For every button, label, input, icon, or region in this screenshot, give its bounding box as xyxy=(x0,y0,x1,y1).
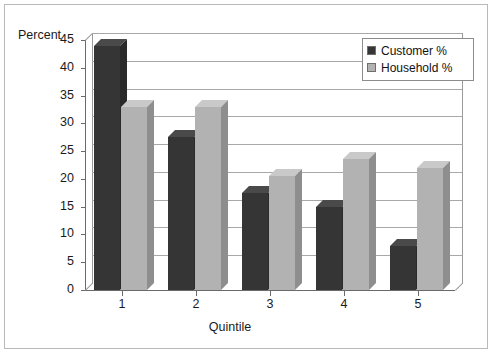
y-tick-mark xyxy=(81,234,85,235)
legend-swatch-customer xyxy=(367,46,376,55)
legend-swatch-household xyxy=(367,63,376,72)
x-tick-mark xyxy=(196,291,197,296)
bar-customer-q2 xyxy=(168,130,194,290)
legend-item: Household % xyxy=(367,59,469,76)
x-tick-label: 4 xyxy=(324,297,364,311)
y-tick-label: 30 xyxy=(40,115,74,129)
y-tick-mark xyxy=(81,68,85,69)
y-tick-label: 15 xyxy=(40,199,74,213)
y-axis-line xyxy=(85,40,86,291)
x-tick-label: 5 xyxy=(398,297,438,311)
bar-front xyxy=(390,246,416,290)
bar-side-face xyxy=(443,161,450,290)
x-tick-mark xyxy=(418,291,419,296)
x-tick-mark xyxy=(270,291,271,296)
bar-customer-q5 xyxy=(390,239,416,290)
y-tick-mark xyxy=(81,290,85,291)
legend-label-customer: Customer % xyxy=(381,44,447,58)
y-tick-label: 10 xyxy=(40,226,74,240)
chart-page: Percent 051015202530354045 12345 Quintil… xyxy=(0,0,493,354)
bar-household-q4 xyxy=(343,152,369,290)
y-tick-label: 20 xyxy=(40,171,74,185)
gridline xyxy=(92,89,462,90)
y-tick-mark xyxy=(81,179,85,180)
bar-front xyxy=(94,46,120,290)
x-tick-mark xyxy=(122,291,123,296)
y-tick-label: 25 xyxy=(40,143,74,157)
bar-customer-q1 xyxy=(94,39,120,290)
bar-customer-q4 xyxy=(316,200,342,290)
bar-customer-q3 xyxy=(242,186,268,290)
y-tick-mark xyxy=(81,96,85,97)
x-axis-title: Quintile xyxy=(0,320,460,334)
bar-front xyxy=(168,137,194,290)
bar-front xyxy=(195,107,221,290)
chart-legend: Customer % Household % xyxy=(362,38,474,81)
legend-label-household: Household % xyxy=(381,61,452,75)
x-tick-label: 1 xyxy=(102,297,142,311)
x-tick-label: 2 xyxy=(176,297,216,311)
x-tick-mark xyxy=(344,291,345,296)
bar-side-face xyxy=(369,152,376,290)
bar-household-q3 xyxy=(269,169,295,290)
bar-front xyxy=(343,159,369,290)
y-tick-label: 35 xyxy=(40,88,74,102)
y-tick-label: 45 xyxy=(40,32,74,46)
gridline xyxy=(92,33,462,34)
bar-side-face xyxy=(221,100,228,290)
y-tick-label: 0 xyxy=(40,282,74,296)
bar-front xyxy=(121,107,147,290)
bar-household-q5 xyxy=(417,161,443,290)
bar-side-face xyxy=(295,169,302,290)
y-tick-mark xyxy=(81,123,85,124)
y-tick-label: 40 xyxy=(40,60,74,74)
y-tick-mark xyxy=(81,40,85,41)
bar-front xyxy=(316,207,342,290)
bar-front xyxy=(269,176,295,290)
y-tick-mark xyxy=(81,262,85,263)
y-tick-mark xyxy=(81,151,85,152)
bar-household-q2 xyxy=(195,100,221,290)
x-tick-label: 3 xyxy=(250,297,290,311)
y-tick-label: 5 xyxy=(40,254,74,268)
bar-side-face xyxy=(147,100,154,290)
wall-diagonal-bottom-right xyxy=(455,283,463,291)
bar-front xyxy=(242,193,268,290)
y-tick-mark xyxy=(81,207,85,208)
legend-item: Customer % xyxy=(367,42,469,59)
bar-front xyxy=(417,168,443,290)
bar-household-q1 xyxy=(121,100,147,290)
